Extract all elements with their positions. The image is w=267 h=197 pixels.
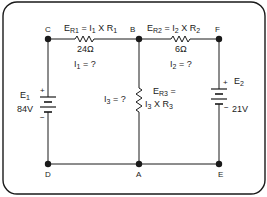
r1-value: 24Ω	[77, 44, 94, 54]
node-c-dot	[45, 36, 51, 42]
e2-voltage: 21V	[232, 104, 248, 114]
node-label-f: F	[215, 25, 220, 35]
e1-plus-sign: +	[40, 86, 45, 96]
node-label-a: A	[136, 170, 141, 180]
r2-equation: ER2 = I2 X R2	[147, 23, 200, 33]
r1-equation: ER1 = I1 X R1	[64, 23, 117, 33]
node-f-dot	[216, 36, 222, 42]
node-label-b: B	[130, 25, 135, 35]
e1-name: E1	[20, 90, 30, 100]
e1-voltage: 84V	[17, 104, 33, 114]
node-label-d: D	[45, 170, 51, 180]
e2-plus-sign: +	[223, 78, 228, 88]
i3-label: I3 = ?	[104, 94, 126, 104]
battery-e2-icon	[211, 89, 227, 104]
wire-right	[211, 39, 227, 164]
battery-e1-icon	[40, 97, 56, 112]
node-a-dot	[136, 161, 142, 167]
node-e-dot	[216, 161, 222, 167]
resistor-r3-icon	[136, 88, 142, 112]
r3-equation-line1: ER3 =	[153, 86, 176, 96]
i2-label: I2 = ?	[170, 59, 192, 69]
node-label-e: E	[218, 170, 223, 180]
i1-label: I1 = ?	[74, 59, 96, 69]
node-label-c: C	[45, 25, 51, 35]
r2-value: 6Ω	[175, 44, 187, 54]
wire-left	[40, 39, 56, 164]
r3-equation-line2: I3 X R3	[145, 99, 173, 109]
e2-minus-sign: −	[224, 103, 229, 113]
wire-top	[48, 36, 219, 42]
e1-minus-sign: −	[40, 113, 45, 123]
wire-middle	[136, 39, 142, 164]
node-b-dot	[136, 36, 142, 42]
node-d-dot	[45, 161, 51, 167]
e2-name: E2	[234, 76, 244, 86]
resistor-r2-icon	[171, 36, 190, 42]
resistor-r1-icon	[75, 36, 94, 42]
